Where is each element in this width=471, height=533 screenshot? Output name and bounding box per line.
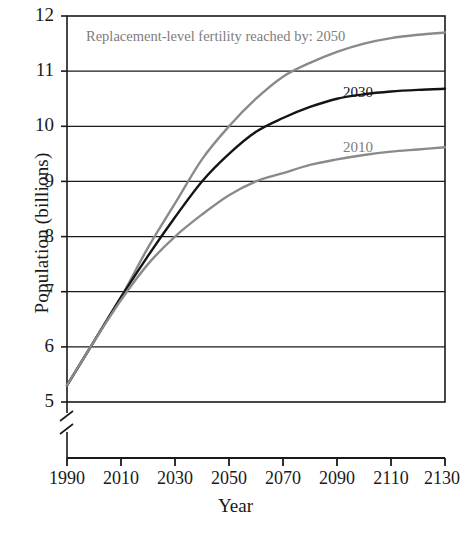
plot-area [0,0,471,533]
y-tick-marks [61,16,67,402]
x-tick-marks [67,458,445,466]
ytick-label-5: 5 [20,390,54,412]
xtick-label-2110: 2110 [362,468,420,489]
xtick-label-2050: 2050 [200,468,258,489]
xtick-label-2130: 2130 [413,468,471,489]
x-axis-title: Year [0,495,471,517]
xtick-label-1990: 1990 [38,468,96,489]
xtick-label-2030: 2030 [146,468,204,489]
plot-frame [67,16,445,402]
axis-break [60,402,73,458]
series-label-2030: 2030 [343,84,373,101]
ytick-label-11: 11 [20,59,54,81]
population-projection-chart: 12 11 10 9 8 7 6 5 1990 2010 2030 2050 2… [0,0,471,533]
y-axis-title: Population (billions) [31,103,53,363]
xtick-label-2070: 2070 [254,468,312,489]
xtick-label-2010: 2010 [92,468,150,489]
xtick-label-2090: 2090 [308,468,366,489]
ytick-label-12: 12 [20,4,54,26]
series-label-2010: 2010 [343,139,373,156]
replacement-level-annotation: Replacement-level fertility reached by: … [86,28,345,45]
